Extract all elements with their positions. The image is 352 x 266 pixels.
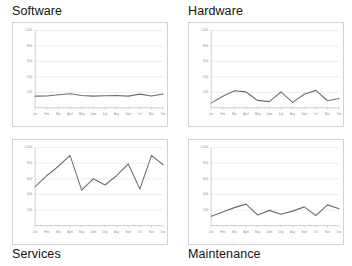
svg-text:600: 600 [203,59,208,63]
chart-plot-services: -2004006008001,000JanFebMarAprilMayJuneJ… [12,139,168,245]
chart-panel-hardware: Hardware -2004006008001,000JanFebMarApri… [176,0,352,133]
svg-text:Oct: Oct [314,112,318,116]
svg-text:400: 400 [27,75,32,79]
svg-text:Aug: Aug [290,112,295,116]
svg-text:Sept: Sept [125,230,131,234]
svg-text:1,000: 1,000 [201,28,209,32]
svg-text:Dec: Dec [337,230,342,234]
svg-text:April: April [67,112,73,116]
svg-text:Sept: Sept [125,112,131,116]
svg-text:-: - [31,223,32,227]
svg-text:200: 200 [203,90,208,94]
svg-text:Aug: Aug [290,230,295,234]
svg-text:Aug: Aug [114,230,119,234]
chart-panel-maintenance: -2004006008001,000JanFebMarAprilMayJuneJ… [176,133,352,266]
svg-text:Dec: Dec [337,112,342,116]
svg-text:April: April [243,230,249,234]
svg-text:Sept: Sept [301,230,307,234]
svg-text:800: 800 [203,44,208,48]
svg-text:Dec: Dec [161,112,166,116]
svg-text:200: 200 [27,208,32,212]
svg-text:May: May [255,230,261,234]
svg-text:200: 200 [27,90,32,94]
svg-text:Mar: Mar [232,230,237,234]
svg-text:-: - [207,223,208,227]
svg-text:Feb: Feb [44,230,49,234]
line-chart-maintenance: -2004006008001,000JanFebMarAprilMayJuneJ… [189,140,343,244]
svg-text:600: 600 [203,177,208,181]
chart-panel-services: -2004006008001,000JanFebMarAprilMayJuneJ… [0,133,176,266]
svg-text:400: 400 [203,192,208,196]
svg-text:May: May [79,230,85,234]
svg-text:June: June [266,230,272,234]
svg-text:July: July [102,112,107,116]
svg-text:May: May [79,112,85,116]
svg-text:Oct: Oct [138,112,142,116]
svg-text:June: June [266,112,272,116]
svg-text:Oct: Oct [314,230,319,234]
svg-text:1,000: 1,000 [201,145,209,149]
svg-text:Jan: Jan [33,230,38,234]
chart-title-maintenance: Maintenance [188,247,344,262]
svg-text:Mar: Mar [56,112,61,116]
svg-text:600: 600 [27,177,32,181]
svg-text:200: 200 [203,208,208,212]
line-chart-hardware: -2004006008001,000JanFebMarAprilMayJuneJ… [189,23,343,126]
chart-title-services: Services [12,247,168,262]
svg-text:June: June [90,230,96,234]
svg-text:Oct: Oct [138,230,143,234]
svg-text:600: 600 [27,59,32,63]
svg-text:Sept: Sept [301,112,307,116]
svg-text:June: June [90,112,96,116]
svg-text:Mar: Mar [56,230,61,234]
chart-title-hardware: Hardware [188,4,344,19]
svg-text:Nov: Nov [149,230,154,234]
chart-title-software: Software [12,4,168,19]
svg-text:Feb: Feb [220,230,225,234]
svg-text:Nov: Nov [325,230,330,234]
svg-text:-: - [31,105,32,109]
svg-text:Feb: Feb [44,112,49,116]
svg-text:May: May [255,112,261,116]
svg-text:800: 800 [27,44,32,48]
svg-text:Jan: Jan [33,112,38,116]
chart-plot-software: -2004006008001,000JanFebMarAprilMayJuneJ… [12,22,168,127]
svg-text:400: 400 [203,75,208,79]
svg-text:1,000: 1,000 [25,145,33,149]
svg-text:-: - [207,105,208,109]
chart-plot-maintenance: -2004006008001,000JanFebMarAprilMayJuneJ… [188,139,344,245]
svg-text:Aug: Aug [114,112,119,116]
svg-text:July: July [102,230,107,234]
svg-text:800: 800 [203,161,208,165]
chart-plot-hardware: -2004006008001,000JanFebMarAprilMayJuneJ… [188,22,344,127]
svg-text:Feb: Feb [220,112,225,116]
svg-text:Jan: Jan [209,112,214,116]
line-chart-services: -2004006008001,000JanFebMarAprilMayJuneJ… [13,140,167,244]
svg-text:April: April [67,230,73,234]
svg-text:Nov: Nov [325,112,330,116]
svg-text:Nov: Nov [149,112,154,116]
line-chart-software: -2004006008001,000JanFebMarAprilMayJuneJ… [13,23,167,126]
small-multiples-chart-grid: Software -2004006008001,000JanFebMarApri… [0,0,352,266]
svg-text:400: 400 [27,192,32,196]
svg-text:Jan: Jan [209,230,214,234]
svg-text:1,000: 1,000 [25,28,33,32]
svg-text:Mar: Mar [232,112,237,116]
chart-panel-software: Software -2004006008001,000JanFebMarApri… [0,0,176,133]
svg-text:Dec: Dec [161,230,166,234]
svg-text:July: July [278,230,283,234]
svg-text:April: April [243,112,249,116]
svg-text:July: July [278,112,283,116]
svg-text:800: 800 [27,161,32,165]
